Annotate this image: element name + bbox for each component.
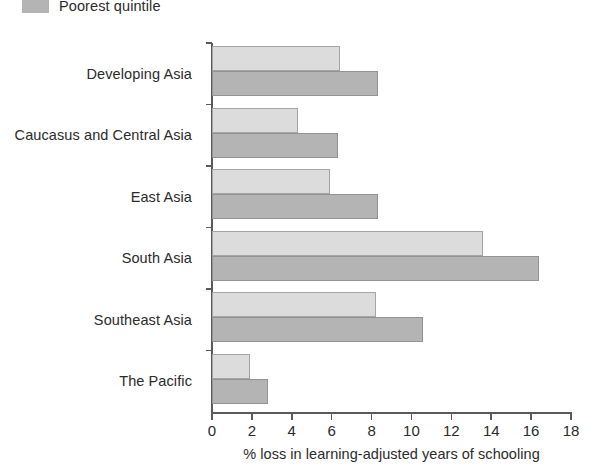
category-tick [206, 288, 212, 290]
x-axis-tick [570, 414, 572, 420]
bar-series-2 [212, 379, 268, 404]
x-axis-tick [331, 414, 333, 420]
bar-series-1 [212, 46, 340, 71]
bar-series-1 [212, 231, 483, 256]
bar-series-2 [212, 133, 338, 158]
x-axis-tick-label: 16 [523, 422, 540, 439]
bar-series-2 [212, 71, 378, 96]
x-axis-tick [411, 414, 413, 420]
x-axis-tick-label: 14 [483, 422, 500, 439]
x-axis-tick [371, 414, 373, 420]
bar-series-1 [212, 354, 250, 379]
category-tick [206, 42, 212, 44]
x-axis-tick [490, 414, 492, 420]
x-axis-tick [291, 414, 293, 420]
x-axis-tick [530, 414, 532, 420]
x-axis-tick [451, 414, 453, 420]
x-axis-line [211, 412, 572, 414]
plot-area: 024681012141618 [212, 43, 571, 412]
category-axis-labels: Developing Asia Caucasus and Central Asi… [0, 43, 200, 412]
legend-swatch-poorest-quintile [22, 0, 49, 13]
bar-group [212, 166, 571, 228]
category-label-the-pacific: The Pacific [119, 373, 192, 389]
category-label-south-asia: South Asia [122, 250, 192, 266]
x-axis-tick [251, 414, 253, 420]
category-tick [206, 227, 212, 229]
bar-group [212, 289, 571, 351]
legend-label-poorest-quintile: Poorest quintile [59, 0, 161, 14]
x-axis-tick-label: 2 [248, 422, 256, 439]
x-axis-tick-label: 8 [367, 422, 375, 439]
bar-series-1 [212, 108, 298, 133]
bar-chart-figure: Poorest quintile Developing Asia Caucasu… [0, 0, 594, 470]
category-tick [206, 350, 212, 352]
bar-series-2 [212, 256, 539, 281]
bar-series-2 [212, 194, 378, 219]
category-label-east-asia: East Asia [131, 189, 192, 205]
x-axis-tick-label: 10 [403, 422, 420, 439]
x-axis-tick-label: 0 [208, 422, 216, 439]
bar-group [212, 228, 571, 290]
bar-series-1 [212, 292, 376, 317]
x-axis-tick-label: 12 [443, 422, 460, 439]
bar-group [212, 105, 571, 167]
bar-series-2 [212, 317, 423, 342]
bar-group [212, 351, 571, 413]
category-label-developing-asia: Developing Asia [87, 66, 193, 82]
bar-group [212, 43, 571, 105]
x-axis-tick-label: 4 [288, 422, 296, 439]
category-label-southeast-asia: Southeast Asia [94, 312, 192, 328]
x-axis-tick [211, 414, 213, 420]
category-label-caucasus-and-central-asia: Caucasus and Central Asia [15, 127, 192, 143]
x-axis-tick-label: 6 [327, 422, 335, 439]
bar-series-1 [212, 169, 330, 194]
x-axis-title: % loss in learning-adjusted years of sch… [212, 446, 571, 462]
category-tick [206, 165, 212, 167]
category-tick [206, 104, 212, 106]
chart-legend: Poorest quintile [22, 0, 161, 16]
x-axis-tick-label: 18 [563, 422, 580, 439]
